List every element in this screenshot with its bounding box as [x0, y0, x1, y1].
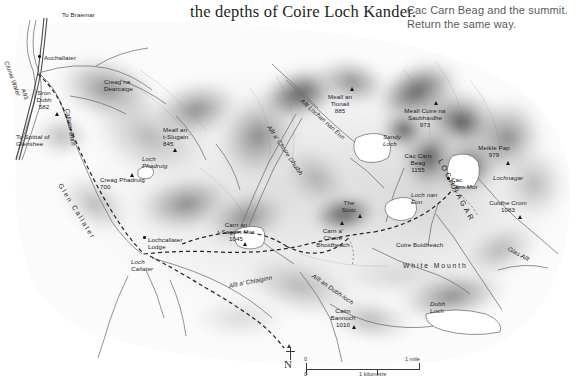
map-marker-dot-auchallater	[38, 55, 41, 58]
header-sans-line-1: Cac Carn Beag and the summit.	[407, 4, 568, 16]
map-marker-peak-meall-an-tionail	[350, 87, 354, 91]
map-marker-peak-cuidhe-crom	[518, 215, 522, 219]
map-marker-peak-carn-an-t-sagairt-mor	[243, 242, 247, 246]
map-marker-peak-meall-an-t-slugain	[173, 148, 177, 152]
map-label-meall-coire-na-saobhaidhe: Meall Coire na Saobhaidhe 973	[404, 107, 445, 129]
map-marker-peak-meall-coire	[434, 101, 438, 105]
scale-miles-max: 1 mile	[405, 356, 420, 362]
compass-crossbar	[286, 351, 295, 352]
map-label-to-spittal-of-glenshee: To Spittal of Glenshee	[16, 133, 50, 147]
map-label-creag-phadruig: Creag Phadruig 700	[100, 176, 145, 190]
map-label-meikle-pap: Meikle Pap 979	[478, 144, 510, 158]
map-screenshot: the depths of Coire Loch Kander. Cac Car…	[0, 0, 579, 384]
map-label-sron-dubh: Sron Dubh 582	[36, 89, 51, 111]
map-marker-peak-meikle-pap	[506, 161, 510, 165]
map-label-loch-phadruig: Loch Phadruig	[142, 155, 168, 169]
map-label-loch-callater: Loch Callater	[131, 258, 153, 272]
map-label-coire-boidheach: Coire Boidheach	[396, 241, 443, 248]
map-label-cuidhe-crom: Cuidhe Crom 1083	[489, 199, 527, 213]
map-marker-peak-the-stuic	[358, 214, 362, 218]
compass-north-label: N	[284, 358, 292, 370]
scale-km-max: 1 kilometre	[359, 371, 386, 377]
map-marker-peak-sron-dubh	[55, 112, 59, 116]
scale-miles-zero: 0	[304, 356, 307, 362]
map-label-the-stuic: The Stuic	[342, 199, 356, 213]
map-label-carn-an-t-sagairt-mor: Carn an t-Sagairt Mor 1045	[217, 221, 254, 243]
map-marker-dot-lochcallater-lodge	[143, 236, 146, 239]
map-label-dubh-loch: Dubh Loch	[430, 300, 445, 314]
map-label-creag-na-dearcaige: Creag na Dearcaige	[104, 78, 133, 92]
scale-bar: N 0 1 mile 0 1 kilometre	[284, 344, 464, 382]
map-label-auchallater: Auchallater	[44, 54, 76, 61]
map-label-meall-an-tionail: Meall an Tionail 885	[328, 93, 352, 115]
map-marker-peak-cairn-bannoch	[352, 325, 356, 329]
map-marker-peak-creag-phadruig	[130, 173, 134, 177]
map-label-cac-carn-beag: Cac Carn Beag 1155	[405, 152, 432, 174]
map-marker-dot-cac-carn-mor	[447, 177, 450, 180]
map-label-sandy-loch: Sandy Loch	[383, 133, 401, 147]
map-label-carn-a-choire-bhoidheach: Carn a' Choire Bhoidheach	[316, 227, 350, 249]
map-label-white-mounth: White Mounth	[403, 262, 468, 269]
scale-km-zero: 0	[304, 371, 307, 377]
map-label-meall-an-t-slugain: Meall an t-Slugain 845	[163, 126, 188, 148]
map-label-lochnagar-corrie: Lochnagar	[493, 174, 523, 181]
scale-tick-mile	[419, 363, 420, 369]
map-marker-peak-carn-a-choire	[340, 221, 344, 225]
map-label-to-braemar: To Braemar	[62, 11, 95, 18]
scale-main-line	[306, 369, 420, 370]
map-label-lochcallater-lodge: Lochcallater Lodge	[148, 236, 183, 250]
map-label-loch-nan-eun: Loch nan Eun	[411, 191, 437, 205]
